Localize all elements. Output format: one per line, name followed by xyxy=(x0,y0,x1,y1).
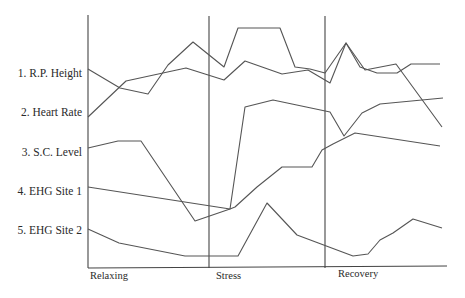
series-line-5 xyxy=(88,203,442,256)
x-axis xyxy=(88,266,447,268)
series-line-3 xyxy=(88,98,443,221)
plot-area xyxy=(0,0,465,298)
series-line-1 xyxy=(88,28,440,94)
series-lines xyxy=(88,28,443,256)
series-line-2 xyxy=(88,43,442,127)
phase-label-recovery: Recovery xyxy=(338,268,378,279)
phase-label-stress: Stress xyxy=(216,270,241,281)
phase-label-relaxing: Relaxing xyxy=(90,270,128,281)
series-line-4 xyxy=(88,133,440,209)
